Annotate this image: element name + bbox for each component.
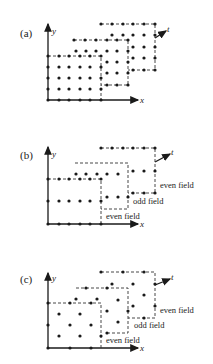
- y-axis-label: y: [51, 149, 56, 159]
- annotation-even-field-top: even field: [160, 180, 194, 190]
- scanning-lattice-figure: (a) y x t: [0, 0, 213, 364]
- t-axis: [155, 154, 170, 162]
- panel-label: (c): [20, 273, 33, 286]
- t-axis-label: t: [171, 147, 174, 157]
- panel-a: (a) y x t: [20, 22, 170, 105]
- annotation-odd-field: odd field: [133, 196, 164, 206]
- t-axis: [155, 279, 170, 285]
- t-axis: [155, 31, 166, 38]
- x-axis-label: x: [139, 219, 144, 229]
- frame-1: [48, 303, 101, 348]
- frame-1-samples: [46, 54, 102, 101]
- panel-label: (b): [20, 149, 33, 162]
- y-axis-label: y: [51, 273, 56, 283]
- annotation-even-field-bottom: even field: [106, 335, 140, 345]
- annotation-even-field-bottom: even field: [106, 211, 140, 221]
- annotation-odd-field: odd field: [134, 320, 165, 330]
- y-axis-label: y: [51, 26, 56, 36]
- even-field-1-samples: [46, 301, 102, 349]
- odd-field-samples: [74, 286, 119, 334]
- odd-field-samples: [74, 172, 129, 198]
- t-axis-label: t: [171, 272, 174, 282]
- t-axis-label: t: [167, 24, 170, 34]
- x-axis-label: x: [139, 95, 144, 105]
- panel-label: (a): [20, 27, 33, 40]
- frame-2: [76, 288, 128, 333]
- annotation-even-field-top: even field: [160, 305, 194, 315]
- panel-b: (b) y x t even field odd field even fiel…: [20, 146, 194, 229]
- x-axis-label: x: [139, 343, 144, 353]
- frame-1: [48, 56, 101, 100]
- panel-c: (c) y x t even field: [20, 270, 194, 353]
- frame-1: [48, 179, 101, 224]
- even-field-1-samples: [46, 177, 102, 225]
